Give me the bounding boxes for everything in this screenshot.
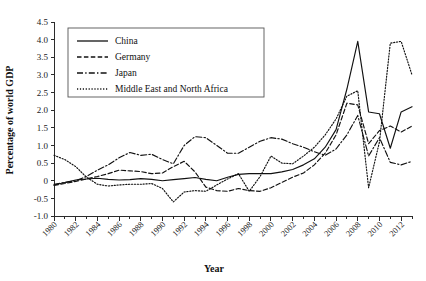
legend-label-germany: Germany — [115, 52, 151, 62]
y-axis-tick-label: 2.0 — [37, 105, 49, 115]
chart-figure: -1.0-0.500.51.01.52.02.53.03.54.04.5 198… — [0, 0, 426, 281]
y-axis-title: Percentage of world GDP — [4, 66, 15, 175]
legend-label-japan: Japan — [115, 68, 137, 78]
y-axis-tick-label: 1.5 — [37, 123, 49, 133]
y-axis-tick-label: 3.5 — [37, 52, 49, 62]
chart-canvas: -1.0-0.500.51.01.52.02.53.03.54.04.5 198… — [0, 0, 426, 281]
y-axis-tick-label: 4.0 — [37, 35, 49, 45]
y-axis-tick-label: -0.5 — [34, 194, 49, 204]
y-axis-tick-label: 3.0 — [37, 70, 49, 80]
y-axis-tick-label: 0 — [44, 176, 49, 186]
chart-legend: ChinaGermanyJapanMiddle East and North A… — [68, 28, 264, 97]
y-axis-tick-label: 0.5 — [37, 158, 49, 168]
legend-label-china: China — [115, 36, 138, 46]
y-axis-tick-label: 1.0 — [37, 141, 49, 151]
y-axis-tick-label: 2.5 — [37, 88, 49, 98]
y-axis-tick-label: 4.5 — [37, 17, 49, 27]
x-axis-title: Year — [204, 263, 225, 274]
legend-label-middle-east-and-north-africa: Middle East and North Africa — [115, 84, 229, 94]
y-axis-tick-label: -1.0 — [34, 211, 49, 221]
